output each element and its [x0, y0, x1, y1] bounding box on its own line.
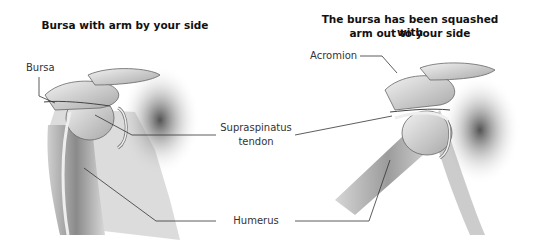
right-shoulder-drawing [335, 63, 520, 235]
supraspinatus-right-leader [295, 116, 392, 135]
left-panel-title: Bursa with arm by your side [35, 19, 215, 32]
acromion-leader [360, 56, 397, 73]
bursa-label: Bursa [26, 62, 55, 74]
supraspinatus-label-line1: Supraspinatus [216, 122, 296, 134]
humerus-label: Humerus [216, 215, 296, 227]
supraspinatus-label-line2: tendon [216, 136, 296, 148]
left-shoulder-drawing [44, 65, 200, 240]
acromion-label: Acromion [310, 50, 357, 62]
right-panel-title-line2: arm out to your side [310, 27, 510, 40]
